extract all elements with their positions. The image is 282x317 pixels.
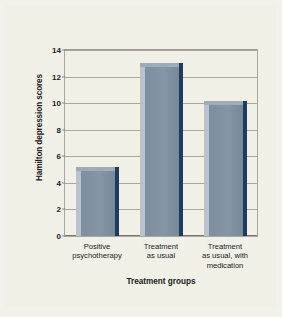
y-tick-mark-10 bbox=[62, 103, 65, 104]
bar-body bbox=[145, 67, 179, 236]
y-tick-label-6: 6 bbox=[57, 152, 61, 161]
plot-area: 02468101214Positive psychotherapyTreatme… bbox=[64, 49, 258, 237]
bar-top-highlight bbox=[204, 101, 247, 105]
bar-body bbox=[209, 105, 243, 237]
y-tick-mark-2 bbox=[62, 209, 65, 210]
x-axis-title: Treatment groups bbox=[64, 277, 258, 286]
bar-body bbox=[81, 171, 115, 236]
y-tick-label-14: 14 bbox=[52, 46, 61, 55]
bar-left-highlight bbox=[76, 167, 81, 236]
y-tick-label-8: 8 bbox=[57, 125, 61, 134]
y-tick-mark-8 bbox=[62, 129, 65, 130]
x-tick-label: Treatment as usual, with medication bbox=[186, 242, 264, 270]
bar[interactable] bbox=[140, 63, 183, 236]
y-tick-mark-0 bbox=[62, 236, 65, 237]
figure: Hamilton depression scores 02468101214Po… bbox=[0, 0, 282, 317]
bar-top-highlight bbox=[76, 167, 119, 171]
y-tick-mark-4 bbox=[62, 182, 65, 183]
y-tick-label-12: 12 bbox=[52, 72, 61, 81]
y-tick-label-4: 4 bbox=[57, 178, 61, 187]
bar-right-edge bbox=[179, 63, 183, 236]
bar-left-highlight bbox=[140, 63, 145, 236]
bar-right-edge bbox=[115, 167, 119, 236]
gridline-14 bbox=[65, 50, 257, 51]
y-tick-mark-12 bbox=[62, 76, 65, 77]
bar[interactable] bbox=[76, 167, 119, 236]
y-tick-label-0: 0 bbox=[57, 232, 61, 241]
y-tick-mark-14 bbox=[62, 50, 65, 51]
bar[interactable] bbox=[204, 101, 247, 237]
y-axis-title: Hamilton depression scores bbox=[35, 48, 44, 208]
y-tick-label-2: 2 bbox=[57, 205, 61, 214]
y-tick-mark-6 bbox=[62, 156, 65, 157]
chart-paper: Hamilton depression scores 02468101214Po… bbox=[6, 5, 276, 307]
bar-left-highlight bbox=[204, 101, 209, 237]
bar-top-highlight bbox=[140, 63, 183, 67]
y-tick-label-10: 10 bbox=[52, 99, 61, 108]
bar-right-edge bbox=[243, 101, 247, 237]
